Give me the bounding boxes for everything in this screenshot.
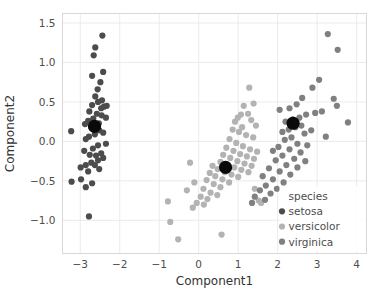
x-tick-label: 4: [353, 258, 360, 270]
data-point: [282, 137, 288, 143]
data-point: [230, 126, 236, 132]
data-point: [194, 200, 200, 206]
data-point: [96, 166, 102, 172]
y-tick-label: −0.5: [30, 175, 56, 187]
data-point: [86, 213, 92, 219]
data-point: [191, 179, 197, 185]
data-point: [226, 179, 232, 185]
x-tick-label: 0: [195, 258, 202, 270]
data-point: [316, 77, 322, 83]
legend-marker-virginica: [279, 239, 285, 245]
data-point: [267, 190, 273, 196]
data-point: [288, 134, 294, 140]
data-point: [187, 160, 193, 166]
data-point: [248, 117, 254, 123]
data-point: [209, 163, 215, 169]
data-point: [233, 140, 239, 146]
data-point: [219, 176, 225, 182]
data-point: [279, 153, 285, 159]
data-point: [250, 134, 256, 140]
data-point: [230, 148, 236, 154]
y-tick-label: 0.5: [39, 96, 56, 108]
data-point: [335, 47, 341, 53]
data-point: [95, 99, 101, 105]
data-point: [303, 111, 309, 117]
x-tick-label: −3: [73, 258, 88, 270]
data-point: [214, 192, 220, 198]
data-point: [103, 141, 109, 147]
centroid-marker-virginica: [286, 117, 299, 130]
data-point: [270, 148, 276, 154]
data-point: [325, 31, 331, 37]
data-point: [323, 134, 329, 140]
data-point: [201, 201, 207, 207]
data-point: [232, 119, 238, 125]
y-tick-label: −1.0: [30, 214, 56, 226]
x-tick-label: 2: [274, 258, 281, 270]
data-point: [275, 144, 281, 150]
data-point: [299, 95, 305, 101]
data-point: [103, 115, 109, 121]
data-point: [244, 153, 250, 159]
y-tick-label: 1.5: [39, 17, 56, 29]
data-point: [270, 176, 276, 182]
data-point: [294, 101, 300, 107]
data-point: [198, 194, 204, 200]
legend-marker-setosa: [279, 208, 285, 214]
data-point: [207, 170, 213, 176]
data-point: [83, 136, 89, 142]
data-point: [227, 155, 233, 161]
data-point: [89, 180, 95, 186]
data-point: [237, 151, 243, 157]
data-point: [308, 127, 314, 133]
data-point: [165, 198, 171, 204]
data-point: [95, 86, 101, 92]
data-point: [95, 142, 101, 148]
data-point: [280, 179, 286, 185]
data-point: [309, 85, 315, 91]
data-point: [312, 110, 318, 116]
data-point: [92, 44, 98, 50]
data-point: [68, 179, 74, 185]
data-point: [287, 171, 293, 177]
data-point: [78, 164, 84, 170]
data-point: [254, 149, 260, 155]
data-point: [97, 79, 103, 85]
data-point: [263, 183, 269, 189]
data-point: [98, 105, 104, 111]
data-point: [302, 158, 308, 164]
data-point: [250, 100, 256, 106]
legend-label-setosa[interactable]: setosa: [289, 205, 323, 217]
y-tick-label: 0.0: [39, 135, 56, 147]
data-point: [204, 177, 210, 183]
data-point: [249, 163, 255, 169]
data-point: [89, 73, 95, 79]
data-point: [220, 152, 226, 158]
data-point: [219, 231, 225, 237]
data-point: [85, 168, 91, 174]
data-point: [257, 187, 263, 193]
data-point: [247, 146, 253, 152]
x-tick-label: −2: [112, 258, 127, 270]
legend-label-versicolor[interactable]: versicolor: [289, 220, 341, 232]
data-point: [304, 142, 310, 148]
data-point: [246, 85, 252, 91]
x-axis-title: Component1: [176, 274, 253, 288]
data-point: [211, 181, 217, 187]
data-point: [277, 168, 283, 174]
data-point: [190, 205, 196, 211]
data-point: [245, 169, 251, 175]
data-point: [175, 236, 181, 242]
data-point: [82, 121, 88, 127]
data-point: [319, 108, 325, 114]
data-point: [217, 184, 223, 190]
data-point: [243, 132, 249, 138]
data-point: [249, 200, 255, 206]
y-axis-title: Component2: [3, 95, 17, 172]
data-point: [235, 174, 241, 180]
legend: speciessetosaversicolorvirginica: [279, 187, 366, 252]
data-point: [234, 158, 240, 164]
legend-label-virginica[interactable]: virginica: [289, 236, 334, 248]
data-point: [86, 108, 92, 114]
data-point: [207, 190, 213, 196]
